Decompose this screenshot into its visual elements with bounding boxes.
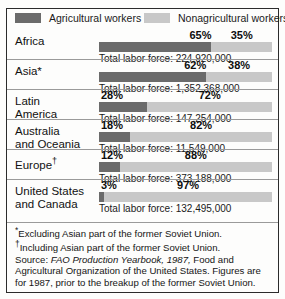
row-percent-nonagricultural: 88% [185, 149, 207, 161]
footnote-source: Source: FAO Production Yearbook, 1987, F… [15, 254, 270, 288]
row-plot: 65% 35% Total labor force: 224,920,000 [99, 29, 272, 59]
row-percent-nonagricultural: 82% [190, 119, 212, 131]
legend-swatch-nonagricultural-icon [144, 13, 170, 23]
legend-swatch-agricultural-icon [15, 13, 41, 23]
row-bar [99, 132, 272, 142]
row-bar [99, 102, 272, 112]
row-region-label: Asia* [15, 59, 99, 78]
row-plot: 3% 97% Total labor force: 132,495,000 [99, 179, 272, 209]
row-percent-agricultural: 28% [101, 89, 123, 101]
row-plot: 18% 82% Total labor force: 11,549,000 [99, 119, 272, 149]
row-total-label: Total labor force: 132,495,000 [99, 203, 272, 214]
row-percent-agricultural: 3% [101, 179, 117, 191]
row-region-line1: Latin [15, 95, 99, 108]
row-region-label: Europe† [15, 149, 99, 171]
row-region-line1: Asia* [15, 65, 99, 78]
row-bar-fill-agricultural [99, 192, 104, 202]
row-percent-line: 18% 82% [99, 119, 272, 131]
chart-row: Latin America 28% 72% Total labor force:… [7, 89, 278, 119]
chart-row: Australia and Oceania 18% 82% Total labo… [7, 119, 278, 149]
chart-row: United States and Canada 3% 97% Total la… [7, 179, 278, 209]
row-percent-line: 12% 88% [99, 149, 272, 161]
footnote-dagger-text: Including Asian part of the former Sovie… [20, 242, 221, 253]
row-bar [99, 42, 272, 52]
row-region-label: Australia and Oceania [15, 119, 99, 150]
row-percent-line: 65% 35% [99, 29, 272, 41]
row-percent-line: 62% 38% [99, 59, 272, 71]
row-region-label: Latin America [15, 89, 99, 120]
chart-rows: Africa 65% 35% Total labor force: 224,92… [7, 29, 278, 209]
row-region-label: Africa [15, 29, 99, 48]
chart-row: Asia* 62% 38% Total labor force: 1,352,3… [7, 59, 278, 89]
row-region-line1: Europe† [15, 155, 99, 171]
row-plot: 12% 88% Total labor force: 373,188,000 [99, 149, 272, 179]
row-bar-fill-agricultural [99, 42, 211, 52]
footnote-dagger: †Including Asian part of the former Sovi… [15, 239, 270, 254]
row-percent-nonagricultural: 35% [231, 29, 253, 41]
row-region-line1: United States [15, 185, 99, 198]
row-bar-fill-agricultural [99, 162, 120, 172]
row-region-text: Europe [15, 159, 52, 171]
row-plot: 62% 38% Total labor force: 1,352,368,000 [99, 59, 272, 89]
figure-footnotes: *Excluding Asian part of the former Sovi… [7, 222, 278, 292]
row-percent-agricultural: 62% [184, 59, 206, 71]
footnote-source-prefix: Source: [15, 254, 48, 265]
row-region-line1: Africa [15, 35, 99, 48]
legend-label-agricultural: Agricultural workers [49, 12, 141, 24]
row-region-label: United States and Canada [15, 179, 99, 210]
row-percent-line: 3% 97% [99, 179, 272, 191]
row-percent-nonagricultural: 97% [177, 179, 199, 191]
chart-row: Europe† 12% 88% Total labor force: 373,1… [7, 149, 278, 179]
row-bar-fill-agricultural [99, 72, 206, 82]
row-percent-line: 28% 72% [99, 89, 272, 101]
row-percent-nonagricultural: 72% [199, 89, 221, 101]
footnote-star: *Excluding Asian part of the former Sovi… [15, 225, 270, 240]
chart-row: Africa 65% 35% Total labor force: 224,92… [7, 29, 278, 59]
figure-container: Agricultural workers Nonagricultural wor… [0, 0, 285, 299]
row-bar-fill-agricultural [99, 102, 147, 112]
row-percent-agricultural: 18% [101, 119, 123, 131]
row-bar [99, 192, 272, 202]
chart-legend: Agricultural workers Nonagricultural wor… [7, 9, 278, 29]
row-bar [99, 162, 272, 172]
row-bar-fill-agricultural [99, 132, 130, 142]
row-region-marker: † [52, 156, 57, 166]
row-plot: 28% 72% Total labor force: 147,254,000 [99, 89, 272, 119]
row-region-line1: Australia [15, 125, 99, 138]
row-percent-nonagricultural: 38% [228, 59, 250, 71]
footnote-source-title: FAO Production Yearbook, 1987, [51, 254, 191, 265]
row-percent-agricultural: 65% [189, 29, 211, 41]
row-region-line2: and Canada [15, 198, 99, 211]
row-percent-agricultural: 12% [101, 149, 123, 161]
legend-item-agricultural: Agricultural workers [15, 12, 141, 24]
legend-label-nonagricultural: Nonagricultural workers [178, 12, 285, 24]
footnotes-divider [7, 222, 278, 223]
footnote-star-text: Excluding Asian part of the former Sovie… [18, 228, 222, 239]
row-bar [99, 72, 272, 82]
legend-item-nonagricultural: Nonagricultural workers [144, 12, 285, 24]
figure-frame: Agricultural workers Nonagricultural wor… [6, 8, 279, 293]
